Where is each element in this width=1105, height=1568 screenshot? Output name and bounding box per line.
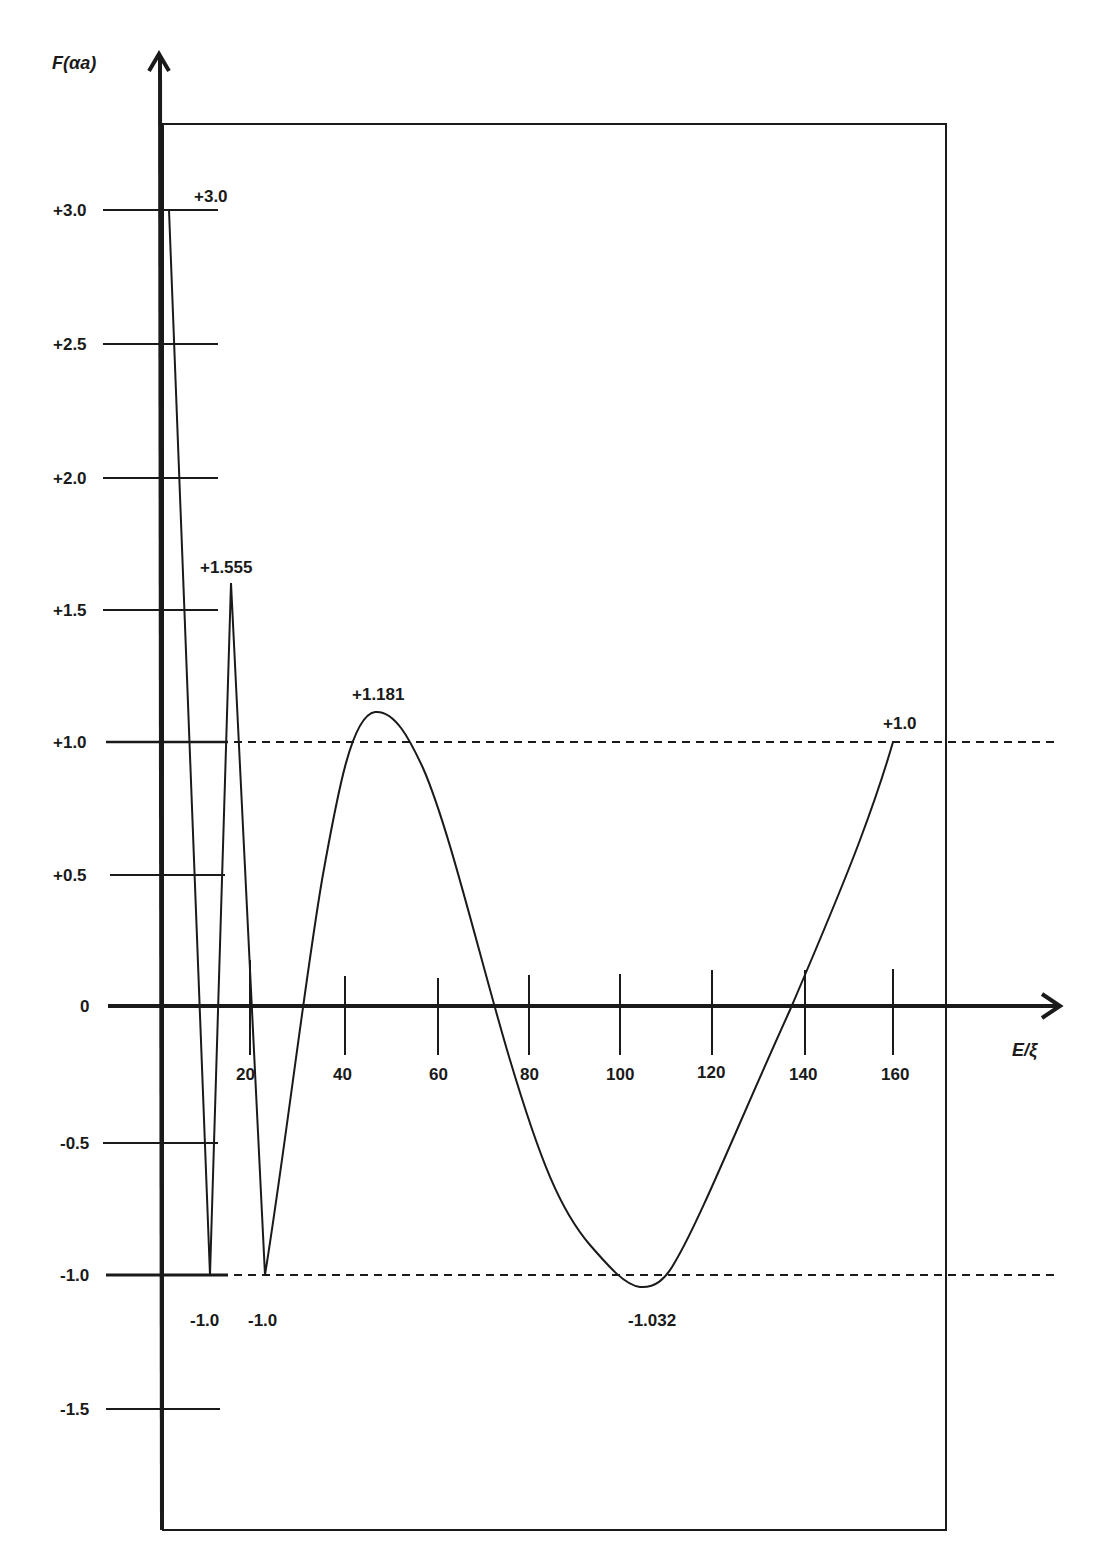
y-tick-marks <box>103 210 228 1409</box>
data-annotations: +3.0 +1.555 +1.181 +1.0 -1.0 -1.0 -1.032 <box>190 187 917 1330</box>
y-tick-label: +1.0 <box>53 733 87 752</box>
x-tick-label: 140 <box>789 1065 817 1084</box>
y-tick-label: +1.5 <box>53 601 87 620</box>
x-tick-label: 20 <box>236 1065 255 1084</box>
y-tick-label: -0.5 <box>60 1134 89 1153</box>
y-axis-title: F(αa) <box>52 53 96 73</box>
y-tick-label: -1.0 <box>60 1266 89 1285</box>
x-axis-title: E/ξ <box>1012 1040 1038 1061</box>
annotation-peak-3.0: +3.0 <box>194 187 228 206</box>
x-tick-labels: 20 40 60 80 100 120 140 160 <box>236 1063 909 1084</box>
annotation-valley-1.032: -1.032 <box>628 1311 676 1330</box>
chart-canvas: F(αa) E/ξ +3.0 +2.5 +2.0 +1.5 +1.0 +0.5 … <box>0 0 1105 1568</box>
x-tick-label: 100 <box>606 1065 634 1084</box>
annotation-valley-1: -1.0 <box>190 1311 219 1330</box>
x-tick-label: 120 <box>697 1063 725 1082</box>
annotation-peak-1.181: +1.181 <box>352 685 404 704</box>
y-tick-label: +2.5 <box>53 335 87 354</box>
y-tick-label: +2.0 <box>53 469 87 488</box>
y-axis <box>160 56 162 1530</box>
annotation-valley-2: -1.0 <box>248 1311 277 1330</box>
plot-frame <box>163 124 946 1530</box>
data-curve <box>169 210 893 1287</box>
annotation-end-1.0: +1.0 <box>883 714 917 733</box>
y-tick-labels: +3.0 +2.5 +2.0 +1.5 +1.0 +0.5 0 -0.5 -1.… <box>53 201 89 1419</box>
y-tick-label: +0.5 <box>53 866 87 885</box>
x-tick-label: 160 <box>881 1065 909 1084</box>
y-tick-label: +3.0 <box>53 201 87 220</box>
x-tick-label: 60 <box>429 1065 448 1084</box>
annotation-peak-1.555: +1.555 <box>200 558 252 577</box>
y-tick-label: -1.5 <box>60 1400 89 1419</box>
x-tick-label: 80 <box>520 1065 539 1084</box>
x-tick-label: 40 <box>333 1065 352 1084</box>
y-tick-label: 0 <box>80 997 89 1016</box>
